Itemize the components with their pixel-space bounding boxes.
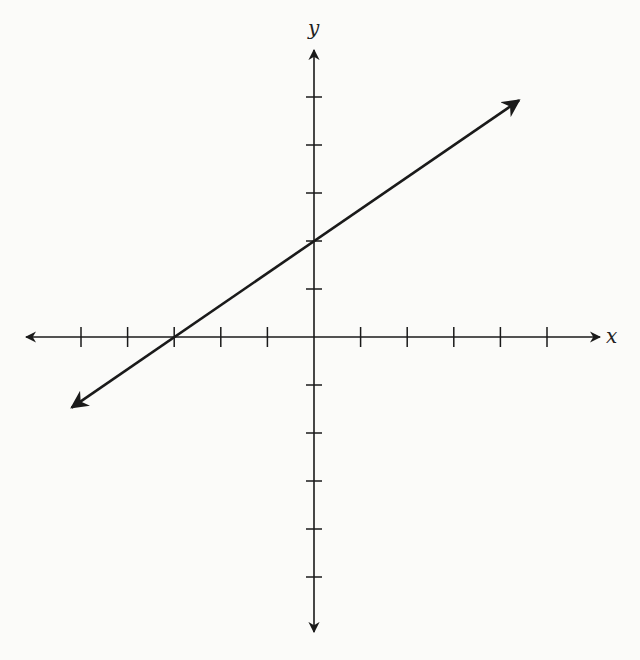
x-axis-label: x (606, 324, 617, 348)
chart-container: x y (0, 0, 640, 660)
coordinate-plane: x y (0, 0, 640, 660)
y-axis-label: y (307, 16, 320, 40)
plotted-line (72, 100, 519, 407)
